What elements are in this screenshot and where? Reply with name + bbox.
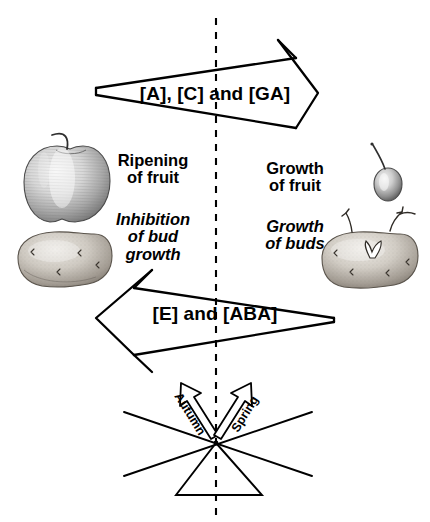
right-process-primary-label: Growth of fruit: [232, 160, 358, 195]
left-process-primary-label: Ripening of fruit: [88, 152, 218, 187]
young-fruitlet-illustration: [370, 142, 402, 201]
balance-seesaw: [124, 412, 312, 495]
lower-arrow-label: [E] and [ABA]: [0, 304, 430, 324]
right-process-secondary-label: Growth of buds: [232, 218, 358, 253]
upper-arrow-label: [A], [C] and [GA]: [0, 84, 430, 104]
hormone-balance-diagram: [A], [C] and [GA] [E] and [ABA] Ripening…: [0, 0, 430, 522]
left-process-secondary-label: Inhibition of bud growth: [88, 211, 218, 263]
triangle-fulcrum: [176, 443, 262, 495]
